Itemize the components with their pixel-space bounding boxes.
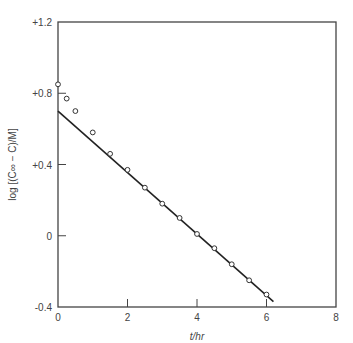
data-point	[247, 278, 252, 283]
y-tick-label: +0.4	[32, 160, 52, 171]
data-point	[177, 216, 182, 221]
y-tick-label: +1.2	[32, 17, 52, 28]
chart: 02468-0.40+0.4+0.8+1.2t/hrlog [(C∞ − C)/…	[0, 0, 353, 343]
fit-line	[58, 111, 273, 302]
data-point	[142, 185, 147, 190]
data-point	[90, 130, 95, 135]
plot-frame	[58, 22, 336, 307]
data-point	[108, 151, 113, 156]
y-tick-label: -0.4	[35, 302, 53, 313]
x-tick-label: 0	[55, 312, 61, 323]
x-tick-label: 2	[125, 312, 131, 323]
y-tick-label: 0	[46, 231, 52, 242]
data-point	[229, 262, 234, 267]
data-point	[264, 292, 269, 297]
y-axis-label: log [(C∞ − C)/M]	[7, 128, 18, 201]
data-point	[160, 201, 165, 206]
data-point	[195, 232, 200, 237]
data-point	[212, 246, 217, 251]
y-tick-label: +0.8	[32, 88, 52, 99]
data-point	[125, 167, 130, 172]
x-tick-label: 6	[264, 312, 270, 323]
x-axis-label: t/hr	[190, 331, 205, 342]
x-tick-label: 8	[333, 312, 339, 323]
data-point	[64, 96, 69, 101]
data-point	[56, 82, 61, 87]
x-tick-label: 4	[194, 312, 200, 323]
data-point	[73, 109, 78, 114]
